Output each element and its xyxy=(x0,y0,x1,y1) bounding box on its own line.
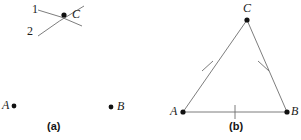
arc-label-2: 2 xyxy=(27,25,33,37)
vertex-label-a-panel-b: A xyxy=(170,105,177,117)
point-label-c-panel-a: C xyxy=(72,8,80,20)
arc-label-1: 1 xyxy=(32,3,38,15)
point-label-b-panel-a: B xyxy=(117,100,124,112)
vertex-a-dot-panel-b xyxy=(180,109,185,114)
panel-a-group xyxy=(12,6,114,109)
vertex-b-dot-panel-b xyxy=(284,109,289,114)
figure-canvas xyxy=(0,0,301,140)
triangle-side-cb xyxy=(247,20,287,112)
panel-caption-b: (b) xyxy=(229,121,243,132)
point-c-dot-panel-a xyxy=(61,12,66,17)
vertex-label-b-panel-b: B xyxy=(291,105,298,117)
point-a-dot-panel-a xyxy=(12,104,17,109)
congruence-tick-side-ac xyxy=(202,61,213,71)
vertex-c-dot-panel-b xyxy=(244,17,249,22)
panel-b-group xyxy=(180,17,289,119)
point-b-dot-panel-a xyxy=(109,105,114,110)
vertex-label-c-panel-b: C xyxy=(243,2,251,14)
point-label-a-panel-a: A xyxy=(2,99,9,111)
geometry-figure: 1 2 C A B (a) C A B (b) xyxy=(0,0,301,140)
panel-caption-a: (a) xyxy=(47,121,60,132)
triangle-side-ac xyxy=(183,20,247,112)
